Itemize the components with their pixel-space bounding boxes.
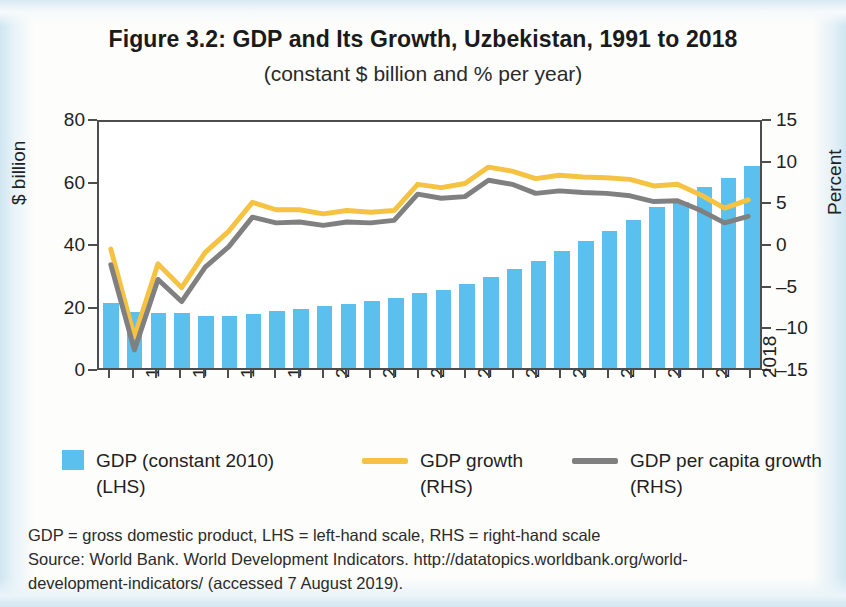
x-axis-tick	[274, 370, 276, 378]
y-axis-right-tick	[762, 286, 771, 288]
x-axis-tick	[464, 370, 466, 378]
x-axis-tick	[179, 370, 181, 378]
y-axis-left-title: $ billion	[8, 141, 30, 205]
x-axis-tick	[108, 370, 110, 378]
figure-title: Figure 3.2: GDP and Its Growth, Uzbekist…	[0, 26, 846, 53]
x-axis-tick	[369, 370, 371, 378]
x-axis-tick	[250, 370, 252, 378]
x-axis-tick	[298, 370, 300, 378]
y-axis-right-tick	[762, 161, 771, 163]
x-axis-tick	[630, 370, 632, 378]
x-axis-tick	[512, 370, 514, 378]
plot-area	[97, 120, 762, 370]
x-axis-tick	[155, 370, 157, 378]
x-axis-tick	[583, 370, 585, 378]
legend-label-scale: (RHS)	[630, 474, 683, 499]
y-axis-right-tick-label: –5	[776, 276, 820, 298]
x-axis-tick	[440, 370, 442, 378]
y-axis-left-tick-label: 80	[41, 109, 85, 131]
x-axis-tick	[417, 370, 419, 378]
x-axis-tick	[322, 370, 324, 378]
x-axis-tick	[725, 370, 727, 378]
y-axis-left-tick	[88, 182, 97, 184]
y-axis-right-tick	[762, 202, 771, 204]
notes-line-2: Source: World Bank. World Development In…	[28, 547, 828, 571]
y-axis-right-tick	[762, 119, 771, 121]
figure-page: Figure 3.2: GDP and Its Growth, Uzbekist…	[0, 0, 846, 607]
x-axis-tick	[393, 370, 395, 378]
y-axis-left-tick-label: 60	[41, 172, 85, 194]
x-axis-tick	[678, 370, 680, 378]
line-gdp-per-capita-growth	[111, 180, 748, 350]
legend-label: GDP (constant 2010)	[96, 448, 274, 473]
x-axis-tick	[132, 370, 134, 378]
y-axis-left-tick-label: 40	[41, 234, 85, 256]
x-axis-tick-label: 2018	[759, 336, 781, 378]
notes-line-1: GDP = gross domestic product, LHS = left…	[28, 523, 828, 547]
y-axis-right-tick-label: 15	[776, 109, 820, 131]
y-axis-right-tick-label: 5	[776, 192, 820, 214]
y-axis-left-tick	[88, 119, 97, 121]
y-axis-right-tick	[762, 244, 771, 246]
y-axis-left-tick	[88, 307, 97, 309]
x-axis-tick	[227, 370, 229, 378]
legend-label-scale: (LHS)	[96, 474, 146, 499]
figure-subtitle: (constant $ billion and % per year)	[0, 62, 846, 86]
y-axis-right-tick-label: 10	[776, 151, 820, 173]
x-axis-tick	[654, 370, 656, 378]
y-axis-left-tick	[88, 369, 97, 371]
legend-label: GDP per capita growth	[630, 448, 822, 473]
figure-notes: GDP = gross domestic product, LHS = left…	[28, 523, 828, 595]
notes-line-3: development-indicators/ (accessed 7 Augu…	[28, 571, 828, 595]
y-axis-right-title: Percent	[824, 150, 846, 215]
x-axis-tick	[559, 370, 561, 378]
x-axis-tick	[702, 370, 704, 378]
y-axis-right-tick-label: –15	[776, 359, 820, 381]
y-axis-right-tick	[762, 327, 771, 329]
chart-legend: GDP (constant 2010)(LHS)GDP growth(RHS)G…	[62, 448, 822, 504]
x-axis-tick	[345, 370, 347, 378]
x-axis-tick	[749, 370, 751, 378]
legend-swatch-line	[362, 458, 408, 464]
y-axis-left-tick	[88, 244, 97, 246]
y-axis-right-tick-label: 0	[776, 234, 820, 256]
y-axis-left-tick-label: 20	[41, 297, 85, 319]
legend-swatch-line	[572, 458, 618, 464]
legend-swatch-bar	[62, 450, 84, 470]
y-axis-left-tick-label: 0	[41, 359, 85, 381]
legend-label: GDP growth	[420, 448, 523, 473]
y-axis-right-tick-label: –10	[776, 317, 820, 339]
legend-label-scale: (RHS)	[420, 474, 473, 499]
line-series-group	[99, 122, 760, 368]
line-gdp-growth	[111, 167, 748, 337]
x-axis-tick	[607, 370, 609, 378]
x-axis-tick	[535, 370, 537, 378]
x-axis-tick	[203, 370, 205, 378]
x-axis-tick	[488, 370, 490, 378]
